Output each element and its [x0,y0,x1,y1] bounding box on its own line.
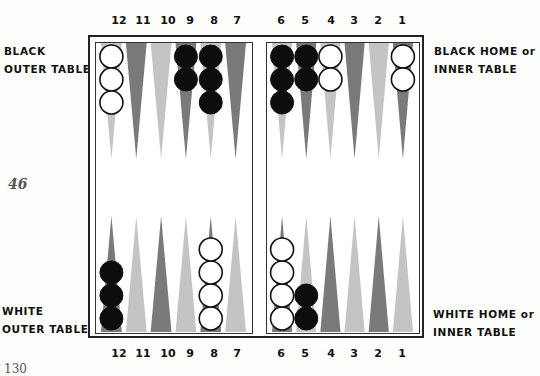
point-2-bottom[interactable] [369,216,389,332]
black-checker[interactable] [295,284,318,307]
point-number: 2 [365,14,391,27]
point-number: 12 [106,347,132,360]
black-checker[interactable] [271,68,294,91]
point-number: 6 [268,347,294,360]
point-number: 6 [268,14,294,27]
point-7-bottom[interactable] [225,216,246,332]
label-black-home-table: BLACK HOME or INNER TABLE [434,42,536,78]
point-number: 5 [292,347,318,360]
label-line: WHITE HOME or [433,305,534,323]
board-points-layer [267,43,418,332]
white-checker[interactable] [100,45,123,68]
point-2-top[interactable] [369,43,389,159]
black-checker[interactable] [100,307,123,330]
black-checker[interactable] [100,284,123,307]
label-line: INNER TABLE [433,323,534,341]
point-number: 9 [177,14,203,27]
point-number: 3 [341,14,367,27]
black-checker[interactable] [199,45,222,68]
label-white-home-table: WHITE HOME or INNER TABLE [433,305,534,341]
home-table-field [266,42,420,334]
black-checker[interactable] [295,45,318,68]
point-11-bottom[interactable] [126,216,147,332]
white-checker[interactable] [199,307,222,330]
point-1-bottom[interactable] [393,216,413,332]
label-white-outer-table: WHITE OUTER TABLE [2,302,88,338]
point-7-top[interactable] [225,43,246,159]
point-11-top[interactable] [126,43,147,159]
white-checker[interactable] [271,284,294,307]
black-checker[interactable] [174,45,197,68]
black-checker[interactable] [295,68,318,91]
black-checker[interactable] [100,261,123,284]
label-line: INNER TABLE [434,60,536,78]
point-number: 7 [224,347,250,360]
white-checker[interactable] [319,45,342,68]
point-number: 2 [365,347,391,360]
page-number: 46 [8,176,27,192]
point-number: 1 [389,14,415,27]
point-number: 9 [177,347,203,360]
white-checker[interactable] [100,91,123,114]
point-number: 5 [292,14,318,27]
outer-table-field [95,42,253,334]
point-number: 7 [224,14,250,27]
point-number: 11 [130,14,156,27]
point-number: 12 [106,14,132,27]
point-number: 11 [130,347,156,360]
label-black-outer-table: BLACK OUTER TABLE [4,42,90,78]
black-checker[interactable] [174,68,197,91]
black-checker[interactable] [199,68,222,91]
white-checker[interactable] [100,68,123,91]
black-checker[interactable] [199,91,222,114]
top-point-numbers: 12 11 10 9 8 7 6 5 4 3 2 1 [0,14,540,28]
label-line: OUTER TABLE [4,60,90,78]
black-checker[interactable] [295,307,318,330]
point-3-top[interactable] [345,43,365,159]
white-checker[interactable] [271,307,294,330]
point-9-bottom[interactable] [176,216,197,332]
bottom-point-numbers: 12 11 10 9 8 7 6 5 4 3 2 1 [0,347,540,361]
white-checker[interactable] [199,261,222,284]
label-line: BLACK [4,42,90,60]
white-checker[interactable] [319,68,342,91]
point-10-bottom[interactable] [151,216,172,332]
white-checker[interactable] [391,45,414,68]
point-10-top[interactable] [151,43,172,159]
point-number: 3 [341,347,367,360]
label-line: OUTER TABLE [2,320,88,338]
point-3-bottom[interactable] [345,216,365,332]
black-checker[interactable] [271,45,294,68]
black-checker[interactable] [271,91,294,114]
label-line: WHITE [2,302,88,320]
label-line: BLACK HOME or [434,42,536,60]
page-footer: 130 [4,362,27,376]
board-points-layer [96,43,251,332]
white-checker[interactable] [271,261,294,284]
point-number: 1 [389,347,415,360]
white-checker[interactable] [199,284,222,307]
point-4-bottom[interactable] [320,216,340,332]
white-checker[interactable] [271,238,294,261]
white-checker[interactable] [199,238,222,261]
white-checker[interactable] [391,68,414,91]
